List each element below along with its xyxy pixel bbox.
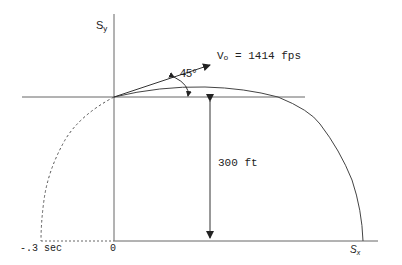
velocity-label: Vo = 1414 fps (217, 50, 301, 62)
height-label: 300 ft (218, 157, 258, 169)
trajectory-diagram: Sy Vo = 1414 fps 45° 300 ft -.3 sec 0 Sx (0, 0, 402, 265)
y-axis-label: Sy (96, 19, 107, 33)
origin-label: 0 (110, 243, 116, 254)
time-label: -.3 sec (20, 243, 62, 254)
angle-label: 45° (180, 67, 197, 79)
extrapolated-curve-dashed (41, 97, 114, 241)
x-axis-label: Sx (350, 244, 361, 256)
angle-arc (174, 77, 188, 96)
